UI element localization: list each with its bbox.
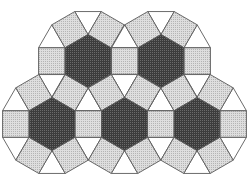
square-tile (220, 111, 247, 138)
square-tile (148, 111, 175, 138)
square-tile (39, 48, 66, 75)
tiling-figure (0, 0, 252, 176)
tiling-diagram (0, 0, 252, 176)
square-tile (75, 111, 102, 138)
square-tile (112, 48, 139, 75)
square-tile (3, 111, 30, 138)
square-tile (184, 48, 211, 75)
